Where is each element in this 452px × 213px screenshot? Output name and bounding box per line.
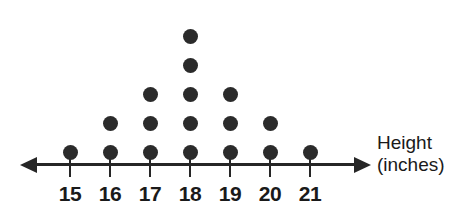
axis-tick-label-18: 18 <box>170 182 210 206</box>
axis-tick-label-15: 15 <box>50 182 90 206</box>
dot-17-2 <box>143 116 158 131</box>
dot-17-3 <box>143 87 158 102</box>
axis-arrow-left-icon <box>20 157 37 173</box>
dot-16-1 <box>103 145 118 160</box>
dot-20-1 <box>263 145 278 160</box>
axis-tick-label-20: 20 <box>250 182 290 206</box>
dot-19-2 <box>223 116 238 131</box>
axis-title-line1: Height <box>377 132 445 154</box>
background-watermark <box>345 8 445 68</box>
dot-21-1 <box>303 145 318 160</box>
axis-title-line2: (inches) <box>377 154 445 176</box>
dot-19-3 <box>223 87 238 102</box>
axis-tick-label-17: 17 <box>130 182 170 206</box>
dot-plot-figure: 15161718192021 Height (inches) <box>0 0 452 213</box>
dot-18-4 <box>183 58 198 73</box>
dot-17-1 <box>143 145 158 160</box>
dot-18-3 <box>183 87 198 102</box>
dot-20-2 <box>263 116 278 131</box>
number-line-axis <box>36 163 355 166</box>
axis-arrow-right-icon <box>354 157 371 173</box>
dot-18-5 <box>183 29 198 44</box>
dot-16-2 <box>103 116 118 131</box>
dot-15-1 <box>63 145 78 160</box>
dot-18-2 <box>183 116 198 131</box>
axis-tick-label-16: 16 <box>90 182 130 206</box>
dot-18-1 <box>183 145 198 160</box>
axis-tick-label-21: 21 <box>290 182 330 206</box>
axis-tick-label-19: 19 <box>210 182 250 206</box>
dot-19-1 <box>223 145 238 160</box>
axis-title: Height (inches) <box>377 132 445 177</box>
